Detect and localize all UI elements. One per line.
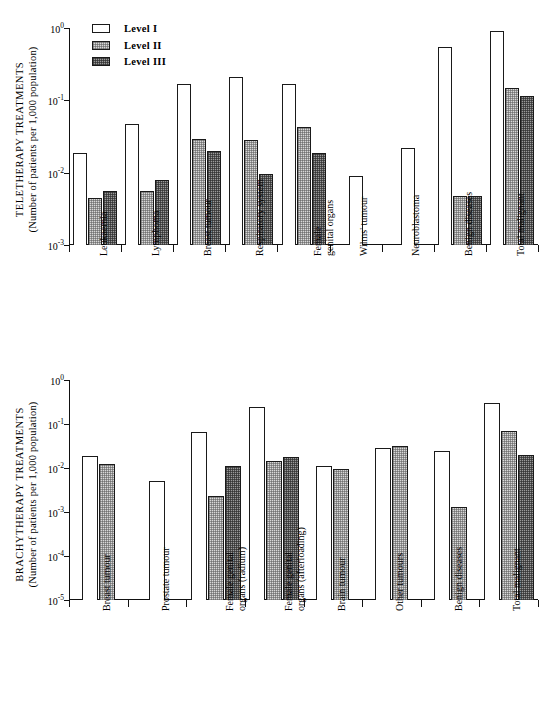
legend-swatch — [92, 24, 110, 33]
x-tick-label: Breast tumour — [101, 554, 113, 611]
legend-label: Level I — [124, 23, 157, 34]
x-tick-mark — [69, 245, 70, 252]
x-tick-label: Female genitalorgans (radium) — [224, 547, 247, 611]
x-tick-mark — [382, 245, 383, 252]
bar — [434, 451, 450, 600]
x-tick-mark — [538, 245, 539, 252]
x-tick-label-line: Lymphoma — [150, 210, 162, 256]
y-tick-label: 100 — [50, 21, 69, 34]
x-tick-mark — [128, 600, 129, 607]
x-tick-mark — [277, 245, 278, 252]
y-tick-label: 10-3 — [48, 505, 69, 518]
bar — [249, 407, 265, 600]
x-tick-label: Lymphoma — [150, 210, 162, 256]
legend-item: Level I — [92, 22, 166, 35]
bar — [82, 456, 98, 600]
y-tick-label: 100 — [50, 373, 69, 386]
bar — [375, 448, 391, 600]
bar — [297, 127, 311, 245]
y-tick-label: 10-1 — [48, 94, 69, 107]
bar — [484, 403, 500, 600]
x-tick-label-line: genital organs — [324, 200, 336, 256]
x-tick-label: Neuroblastoma — [410, 195, 422, 256]
y-tick-label: 10-2 — [48, 166, 69, 179]
legend: Level ILevel IILevel III — [92, 22, 166, 72]
bar — [282, 84, 296, 245]
y-tick-label: 10-2 — [48, 461, 69, 474]
x-tick-mark — [479, 600, 480, 607]
y-axis-title-line2: (Number of patients per 1,000 population… — [27, 367, 40, 622]
bar — [208, 496, 224, 600]
x-tick-label-line: Female genital — [224, 547, 236, 611]
x-tick-mark — [421, 600, 422, 607]
legend-item: Level II — [92, 39, 166, 52]
teletherapy-y-axis-title: TELETHERAPY TREATMENTS (Number of patien… — [14, 17, 39, 262]
x-tick-label-line: Female — [312, 200, 324, 256]
x-tick-label-line: Benign diseases — [453, 547, 465, 611]
x-tick-label-line: Prostate tumour — [160, 547, 172, 611]
bar — [177, 84, 191, 245]
x-tick-label-line: Benign diseases — [463, 192, 475, 256]
bar — [266, 461, 282, 600]
legend-label: Level II — [124, 40, 162, 51]
legend-swatch — [92, 41, 110, 50]
x-tick-label: Total malignant — [515, 193, 527, 256]
x-tick-label: Breast tumour — [202, 199, 214, 256]
legend-label: Level III — [124, 56, 166, 67]
x-tick-mark — [486, 245, 487, 252]
y-axis-title-line2: (Number of patients per 1,000 population… — [27, 17, 40, 262]
bar — [490, 31, 504, 245]
x-tick-label: Benign diseases — [463, 192, 475, 256]
y-axis-title-line1: TELETHERAPY TREATMENTS — [14, 17, 27, 262]
x-tick-mark — [186, 600, 187, 607]
x-tick-label-line: organs (afterloading) — [294, 527, 306, 611]
x-tick-label-line: Breast tumour — [101, 554, 113, 611]
x-tick-label-line: Female genital — [283, 527, 295, 611]
bar — [229, 77, 243, 245]
x-tick-label: Prostate tumour — [160, 547, 172, 611]
teletherapy-chart: TELETHERAPY TREATMENTS (Number of patien… — [0, 0, 555, 350]
x-tick-label-line: Total malignant — [515, 193, 527, 256]
bar — [73, 153, 87, 245]
x-tick-label-line: organs (radium) — [236, 547, 248, 611]
x-tick-mark — [69, 600, 70, 607]
legend-swatch — [92, 57, 110, 66]
x-tick-label: Wilms' tumour — [358, 197, 370, 256]
x-tick-label-line: Brain tumour — [336, 557, 348, 611]
x-tick-label: Femalegenital organs — [312, 200, 335, 256]
bar — [438, 47, 452, 245]
x-tick-label: Leukaemia — [98, 212, 110, 256]
x-tick-label: Respiratory system — [254, 179, 266, 256]
legend-item: Level III — [92, 55, 166, 68]
x-tick-label-line: Leukaemia — [98, 212, 110, 256]
bar — [125, 124, 139, 245]
brachytherapy-chart: BRACHYTHERAPY TREATMENTS (Number of pati… — [0, 352, 555, 728]
figure-page: TELETHERAPY TREATMENTS (Number of patien… — [0, 0, 555, 728]
x-tick-label-line: Neuroblastoma — [410, 195, 422, 256]
x-tick-mark — [225, 245, 226, 252]
x-tick-label: Female genitalorgans (afterloading) — [283, 527, 306, 611]
bar — [191, 432, 207, 600]
y-tick-label: 10-5 — [48, 593, 69, 606]
x-tick-label: Other tumours — [394, 553, 406, 611]
x-tick-label-line: Breast tumour — [202, 199, 214, 256]
x-tick-label-line: Respiratory system — [254, 179, 266, 256]
x-tick-mark — [362, 600, 363, 607]
y-axis-title-line1: BRACHYTHERAPY TREATMENTS — [14, 367, 27, 622]
x-tick-label-line: Total malignant — [511, 548, 523, 611]
x-tick-label: Total malignant — [511, 548, 523, 611]
x-tick-mark — [121, 245, 122, 252]
brachytherapy-y-axis-title: BRACHYTHERAPY TREATMENTS (Number of pati… — [14, 367, 39, 622]
x-tick-mark — [538, 600, 539, 607]
y-tick-label: 10-4 — [48, 549, 69, 562]
x-tick-label: Benign diseases — [453, 547, 465, 611]
x-tick-label: Brain tumour — [336, 557, 348, 611]
x-tick-mark — [173, 245, 174, 252]
x-tick-label-line: Wilms' tumour — [358, 197, 370, 256]
y-tick-label: 10-1 — [48, 417, 69, 430]
x-tick-mark — [434, 245, 435, 252]
x-tick-label-line: Other tumours — [394, 553, 406, 611]
bar — [316, 466, 332, 600]
y-tick-label: 10-3 — [48, 238, 69, 251]
